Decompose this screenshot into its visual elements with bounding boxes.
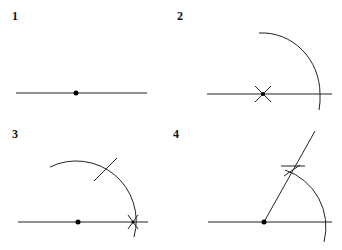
panel-3-arc-mark-a	[94, 158, 117, 181]
panel-4-point	[262, 220, 267, 225]
panel-1-point	[74, 91, 79, 96]
panel-2-arc	[259, 33, 320, 110]
panel-4-ray	[264, 131, 315, 222]
panel-2-point	[261, 92, 265, 96]
panel-4-arc	[285, 170, 326, 242]
panel-3-point	[76, 220, 81, 225]
panel-3-intersection-point	[132, 221, 135, 224]
construction-diagram	[0, 0, 342, 250]
panel-3-arc	[50, 161, 136, 237]
